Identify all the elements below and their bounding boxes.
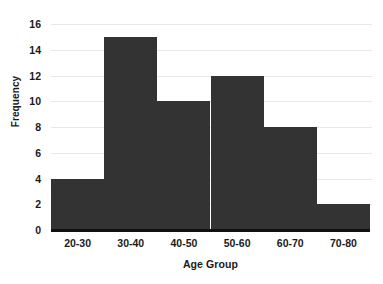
bar[interactable] [317, 204, 370, 230]
x-axis-line [51, 229, 370, 232]
y-axis-tick-label: 6 [1, 148, 41, 159]
bar[interactable] [51, 179, 104, 231]
x-axis-tick-label: 30-40 [104, 236, 157, 250]
x-axis-tick-label: 40-50 [157, 236, 210, 250]
x-axis-tick-labels: 20-3030-4040-5050-6060-7070-80 [51, 236, 370, 252]
x-axis-tick-label: 50-60 [211, 236, 264, 250]
x-axis-tick-label: 20-30 [51, 236, 104, 250]
y-axis-tick-labels: 0246810121416 [0, 0, 48, 284]
bars-layer [51, 24, 370, 230]
x-axis-tick-label: 70-80 [317, 236, 370, 250]
bar[interactable] [157, 101, 210, 230]
plot-area [51, 24, 372, 230]
y-axis-tick-label: 14 [1, 45, 41, 56]
y-axis-tick-label: 12 [1, 70, 41, 81]
y-axis-tick-label: 8 [1, 122, 41, 133]
y-axis-tick-label: 16 [1, 19, 41, 30]
y-axis-tick-label: 4 [1, 173, 41, 184]
y-axis-tick-label: 2 [1, 199, 41, 210]
bar[interactable] [211, 76, 264, 231]
x-axis-tick-label: 60-70 [264, 236, 317, 250]
y-axis-tick-label: 10 [1, 96, 41, 107]
x-axis-title: Age Group [51, 258, 370, 270]
histogram-chart: Frequency 0246810121416 20-3030-4040-505… [0, 0, 383, 284]
bar[interactable] [104, 37, 157, 230]
bar[interactable] [264, 127, 317, 230]
y-axis-tick-label: 0 [1, 225, 41, 236]
